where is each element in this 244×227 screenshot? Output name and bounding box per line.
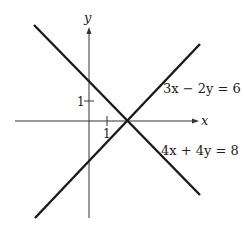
x-tick-label: 1 xyxy=(103,127,111,141)
y-axis-label: y xyxy=(83,10,92,25)
equation-label-1: 3x − 2y = 6 xyxy=(163,81,241,96)
y-axis-arrow-icon xyxy=(87,27,92,34)
equation-label-2: 4x + 4y = 8 xyxy=(161,143,239,158)
graph: y x 1 1 3x − 2y = 6 4x + 4y = 8 xyxy=(0,0,244,227)
y-tick-label: 1 xyxy=(77,95,85,109)
line-4x-plus-4y-eq-8 xyxy=(34,25,200,195)
x-axis-arrow-icon xyxy=(192,119,199,124)
line-3x-minus-2y-eq-6 xyxy=(35,44,200,218)
x-axis-label: x xyxy=(201,113,209,128)
